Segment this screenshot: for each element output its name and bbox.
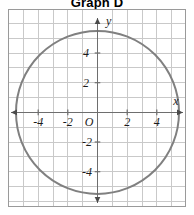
graph-figure: Graph D	[0, 0, 194, 215]
origin-label: O	[85, 115, 94, 129]
y-tick-label-pos4: 4	[83, 46, 89, 60]
coordinate-plane-svg: y x -4 -2 2 4 O 4 2 -2 -4	[8, 9, 186, 207]
y-axis-label: y	[105, 14, 112, 28]
x-tick-label-neg2: -2	[63, 115, 73, 129]
y-tick-label-neg4: -4	[82, 165, 92, 179]
coordinate-plane: y x -4 -2 2 4 O 4 2 -2 -4	[8, 9, 186, 207]
x-axis-label: x	[172, 94, 179, 108]
x-tick-label-neg4: -4	[33, 115, 43, 129]
y-tick-label-pos2: 2	[83, 76, 89, 90]
x-tick-label-pos2: 2	[124, 115, 130, 129]
x-tick-label-pos4: 4	[154, 115, 160, 129]
y-tick-label-neg2: -2	[82, 135, 92, 149]
